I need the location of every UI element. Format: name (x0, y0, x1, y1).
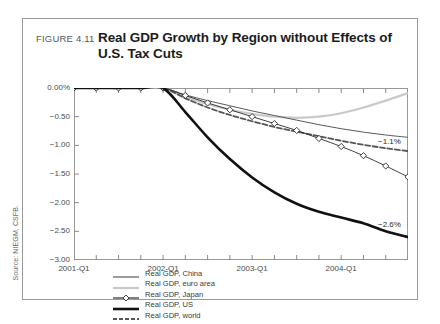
figure-number: FIGURE 4.11 (36, 30, 98, 44)
series-line (74, 88, 408, 177)
data-point-marker (383, 163, 389, 169)
legend-item[interactable]: Real GDP, world (112, 310, 262, 321)
x-axis-tick-label: 2001-Q1 (44, 264, 104, 273)
y-axis-tick-label: −1.00 (34, 140, 70, 149)
legend-swatch (112, 310, 140, 320)
legend-item[interactable]: Real GDP, US (112, 300, 262, 311)
legend-label: Real GDP, Japan (140, 290, 203, 299)
series-line (74, 88, 408, 237)
data-point-marker (338, 143, 344, 149)
y-axis-tick-label: 0.00% (34, 83, 70, 92)
y-axis-tick-label: −2.50 (34, 226, 70, 235)
legend-label: Real GDP, China (140, 269, 202, 278)
x-axis-tick-label: 2004-Q1 (311, 264, 371, 273)
legend-label: Real GDP, US (140, 300, 193, 309)
page-title: Real GDP Growth by Region without Effect… (98, 30, 392, 62)
title-line-1: Real GDP Growth by Region without Effect… (98, 30, 392, 46)
chart-area: 0.00%−0.50−1.00−1.50−2.00−2.50−3.00 2001… (36, 82, 410, 272)
legend-label: Real GDP, world (140, 311, 201, 320)
data-point-marker (405, 174, 408, 180)
y-axis-tick-label: −0.50 (34, 112, 70, 121)
chart-legend: Real GDP, ChinaReal GDP, euro areaReal G… (112, 268, 262, 321)
legend-item[interactable]: Real GDP, euro area (112, 279, 262, 290)
y-axis-tick-label: −1.50 (34, 169, 70, 178)
legend-swatch (112, 279, 140, 289)
legend-item[interactable]: Real GDP, China (112, 268, 262, 279)
chart-plot-svg (74, 88, 408, 260)
legend-label: Real GDP, euro area (140, 279, 215, 288)
plot-area (74, 88, 408, 260)
source-note: Source: NIEGM, CSFB. (12, 203, 19, 281)
y-axis-tick-label: −2.00 (34, 198, 70, 207)
value-annotation: −2.6% (378, 220, 401, 229)
figure-header: FIGURE 4.11 Real GDP Growth by Region wi… (36, 30, 406, 62)
y-axis-tick-label: −3.00 (34, 255, 70, 264)
title-line-2: U.S. Tax Cuts (98, 46, 392, 62)
legend-swatch (112, 268, 140, 278)
value-annotation: −1.1% (378, 137, 401, 146)
data-point-marker (360, 153, 366, 159)
series-line (74, 88, 408, 151)
legend-swatch (112, 289, 140, 299)
legend-item[interactable]: Real GDP, Japan (112, 289, 262, 300)
data-point-marker (227, 107, 233, 113)
legend-swatch (112, 300, 140, 310)
